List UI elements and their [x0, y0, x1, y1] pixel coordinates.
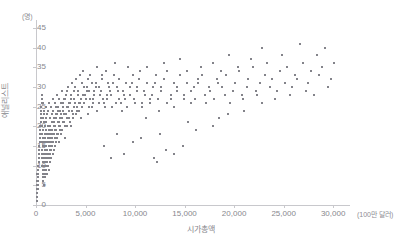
- data-point: [153, 157, 155, 159]
- data-point: [47, 165, 49, 167]
- data-point: [72, 113, 74, 115]
- data-point: [46, 133, 48, 135]
- data-point: [227, 113, 229, 115]
- data-point: [81, 82, 83, 84]
- data-point: [99, 94, 101, 96]
- data-point: [234, 82, 236, 84]
- data-point: [87, 113, 89, 115]
- data-point: [129, 86, 131, 88]
- data-point: [238, 70, 240, 72]
- data-point: [37, 188, 39, 190]
- data-point: [72, 117, 74, 119]
- x-tick-mark: [284, 205, 285, 208]
- data-point: [37, 184, 39, 186]
- data-point: [37, 165, 39, 167]
- data-point: [279, 70, 281, 72]
- data-point: [112, 82, 114, 84]
- data-point: [134, 102, 136, 104]
- data-point: [157, 98, 159, 100]
- data-point: [65, 113, 67, 115]
- data-point: [56, 113, 58, 115]
- data-point: [96, 66, 98, 68]
- data-point: [324, 47, 326, 49]
- data-point: [261, 47, 263, 49]
- data-point: [156, 161, 158, 163]
- data-point: [70, 125, 72, 127]
- data-point: [51, 113, 53, 115]
- data-point: [50, 106, 52, 108]
- data-point: [299, 43, 301, 45]
- data-point: [143, 90, 145, 92]
- data-point: [95, 82, 97, 84]
- data-point: [73, 106, 75, 108]
- data-point: [55, 141, 57, 143]
- data-point: [124, 98, 126, 100]
- data-point: [241, 94, 243, 96]
- x-tick-label: 5,000: [76, 210, 96, 218]
- data-point: [100, 90, 102, 92]
- data-point: [208, 86, 210, 88]
- plot-area: [36, 20, 348, 205]
- data-point: [289, 94, 291, 96]
- data-point: [141, 106, 143, 108]
- data-point: [310, 70, 312, 72]
- data-point: [86, 86, 88, 88]
- data-point: [40, 106, 42, 108]
- data-point: [67, 106, 69, 108]
- data-point: [84, 94, 86, 96]
- data-point: [54, 102, 56, 104]
- data-point: [95, 86, 97, 88]
- data-point: [216, 78, 218, 80]
- x-tick-mark: [36, 205, 37, 208]
- data-point: [51, 137, 53, 139]
- data-point: [37, 180, 39, 182]
- data-point: [118, 98, 120, 100]
- data-point: [43, 184, 45, 186]
- data-point: [163, 62, 165, 64]
- data-point: [98, 86, 100, 88]
- data-point: [36, 196, 38, 198]
- data-point: [333, 62, 335, 64]
- data-point: [46, 173, 48, 175]
- data-point: [116, 133, 118, 135]
- data-point: [41, 125, 43, 127]
- data-point: [54, 125, 56, 127]
- x-axis-unit-label: (100만 달러): [357, 211, 393, 218]
- data-point: [91, 106, 93, 108]
- x-tick-label: 0: [34, 210, 38, 218]
- data-point: [183, 98, 185, 100]
- data-point: [83, 102, 85, 104]
- data-point: [136, 90, 138, 92]
- data-point: [133, 98, 135, 100]
- data-point: [105, 70, 107, 72]
- data-point: [73, 90, 75, 92]
- data-point: [170, 98, 172, 100]
- data-point: [200, 66, 202, 68]
- data-point: [44, 176, 46, 178]
- data-point: [41, 98, 43, 100]
- data-point: [48, 169, 50, 171]
- data-point: [116, 86, 118, 88]
- data-point: [54, 145, 56, 147]
- data-point: [64, 98, 66, 100]
- data-point: [101, 74, 103, 76]
- x-tick-label: 10,000: [123, 210, 147, 218]
- y-axis-title: 애널리스트: [2, 68, 10, 132]
- data-point: [197, 82, 199, 84]
- data-point: [61, 90, 63, 92]
- data-point: [163, 78, 165, 80]
- data-point: [110, 94, 112, 96]
- data-point: [117, 90, 119, 92]
- data-point: [131, 82, 133, 84]
- data-point: [160, 90, 162, 92]
- data-point: [107, 82, 109, 84]
- data-point: [38, 153, 40, 155]
- data-point: [259, 82, 261, 84]
- data-point: [46, 113, 48, 115]
- data-point: [75, 113, 77, 115]
- data-point: [166, 70, 168, 72]
- data-point: [51, 145, 53, 147]
- data-point: [73, 98, 75, 100]
- data-point: [65, 94, 67, 96]
- data-point: [45, 121, 47, 123]
